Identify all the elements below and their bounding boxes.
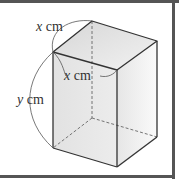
label-top-depth: x cm: [35, 19, 63, 34]
frame-bottom: [0, 175, 175, 178]
frame-right: [172, 0, 175, 179]
frame-top: [0, 0, 179, 3]
diagram-canvas: x cm x cm y cm: [0, 0, 179, 181]
label-height: y cm: [15, 92, 44, 107]
cuboid-diagram: x cm x cm y cm: [0, 0, 179, 181]
label-top-width: x cm: [63, 68, 91, 83]
